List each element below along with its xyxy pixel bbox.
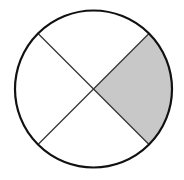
fraction-circle-diagram	[0, 0, 184, 180]
